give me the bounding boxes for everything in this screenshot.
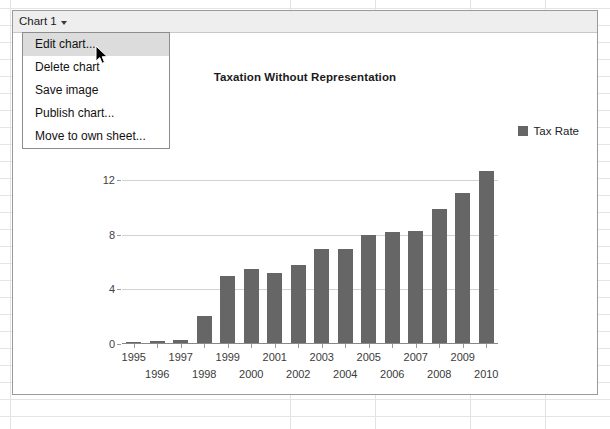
x-tick-mark — [298, 344, 299, 348]
menu-item-4[interactable]: Move to own sheet... — [23, 125, 169, 148]
x-tick-mark — [134, 344, 135, 348]
chart-object-header[interactable]: Chart 1 — [13, 11, 597, 33]
bar[interactable] — [244, 269, 259, 343]
chart-legend: Tax Rate — [518, 125, 579, 137]
x-tick-label: 1997 — [169, 351, 193, 363]
x-tick-label: 2000 — [239, 368, 263, 380]
sheet-row-divider — [0, 399, 610, 400]
x-tick-mark — [463, 344, 464, 348]
bar[interactable] — [267, 273, 282, 343]
x-tick-mark — [228, 344, 229, 348]
gridline — [122, 180, 498, 181]
x-tick-label: 2006 — [380, 368, 404, 380]
bar[interactable] — [314, 249, 329, 343]
x-tick-label: 2005 — [357, 351, 381, 363]
plot-area: 04812 1995199619971998199920002001200220… — [122, 158, 498, 344]
x-tick-mark — [369, 344, 370, 348]
y-tick-mark — [117, 344, 121, 345]
x-tick-label: 1996 — [145, 368, 169, 380]
menu-item-0[interactable]: Edit chart... — [23, 33, 169, 56]
axis-baseline — [122, 343, 498, 344]
x-tick-label: 2001 — [263, 351, 287, 363]
x-tick-mark — [275, 344, 276, 348]
sheet-row-divider — [0, 416, 610, 417]
x-tick-mark — [416, 344, 417, 348]
x-tick-label: 1998 — [192, 368, 216, 380]
screenshot-root: Chart 1 Taxation Without Representation … — [0, 0, 610, 429]
x-tick-mark — [392, 344, 393, 348]
x-tick-label: 1995 — [122, 351, 146, 363]
legend-swatch-tax-rate — [518, 126, 528, 136]
x-tick-label: 1999 — [216, 351, 240, 363]
x-tick-mark — [157, 344, 158, 348]
chart-title-label: Chart 1 — [19, 14, 57, 29]
menu-item-3[interactable]: Publish chart... — [23, 102, 169, 125]
x-tick-label: 2008 — [427, 368, 451, 380]
x-tick-label: 2009 — [451, 351, 475, 363]
x-tick-mark — [322, 344, 323, 348]
chart-title-dropdown-button[interactable]: Chart 1 — [19, 14, 67, 29]
x-tick-mark — [204, 344, 205, 348]
x-tick-label: 2002 — [286, 368, 310, 380]
bar[interactable] — [197, 316, 212, 343]
x-tick-label: 2003 — [310, 351, 334, 363]
x-tick-mark — [486, 344, 487, 348]
x-tick-mark — [181, 344, 182, 348]
bar[interactable] — [432, 209, 447, 343]
x-tick-mark — [439, 344, 440, 348]
chevron-down-icon — [61, 21, 67, 25]
y-tick-mark — [117, 289, 121, 290]
y-tick-mark — [117, 235, 121, 236]
menu-item-1[interactable]: Delete chart — [23, 56, 169, 79]
x-tick-label: 2007 — [404, 351, 428, 363]
sheet-row-divider — [0, 8, 610, 9]
chart-context-menu[interactable]: Edit chart...Delete chartSave imagePubli… — [22, 32, 170, 149]
bar[interactable] — [361, 235, 376, 343]
legend-label-tax-rate: Tax Rate — [534, 125, 579, 137]
y-tick-label: 4 — [109, 283, 115, 295]
bar[interactable] — [408, 231, 423, 343]
bar[interactable] — [338, 249, 353, 343]
x-tick-label: 2010 — [474, 368, 498, 380]
menu-item-2[interactable]: Save image — [23, 79, 169, 102]
x-tick-mark — [251, 344, 252, 348]
bar[interactable] — [479, 171, 494, 343]
x-tick-label: 2004 — [333, 368, 357, 380]
bar[interactable] — [385, 232, 400, 343]
y-tick-label: 8 — [109, 229, 115, 241]
bar[interactable] — [455, 193, 470, 343]
y-tick-label: 0 — [109, 338, 115, 350]
y-tick-mark — [117, 180, 121, 181]
bar[interactable] — [291, 265, 306, 343]
bar[interactable] — [220, 276, 235, 343]
x-tick-mark — [345, 344, 346, 348]
y-tick-label: 12 — [103, 174, 115, 186]
